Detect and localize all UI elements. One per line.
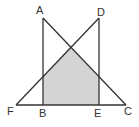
diagram-canvas: A D F B E C bbox=[0, 0, 139, 127]
label-D: D bbox=[97, 6, 105, 18]
label-F: F bbox=[7, 105, 14, 117]
geometry-diagram: A D F B E C bbox=[0, 0, 139, 127]
label-A: A bbox=[36, 4, 44, 16]
label-E: E bbox=[94, 107, 101, 119]
label-B: B bbox=[39, 107, 46, 119]
shaded-region bbox=[43, 47, 99, 105]
label-C: C bbox=[124, 105, 132, 117]
